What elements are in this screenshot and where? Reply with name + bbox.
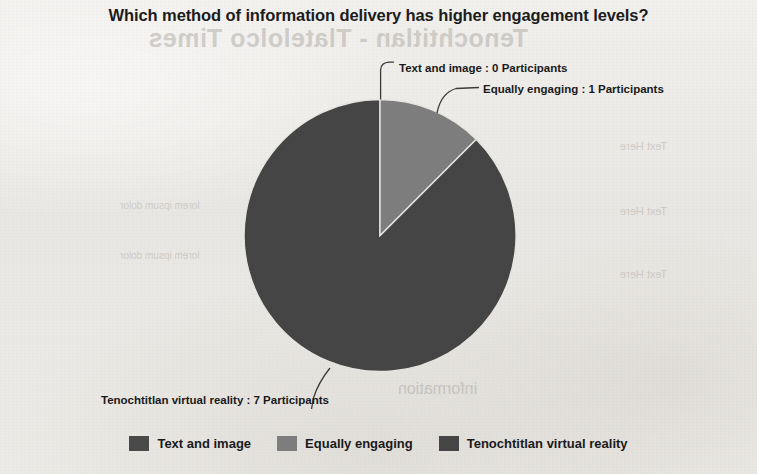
chart-page: Tenochtitlan - Tlatelolco Times Text Her…: [0, 0, 757, 474]
leader-line-equally-engaging: [437, 88, 479, 114]
leader-line-text-and-image: [381, 62, 394, 99]
legend-item-tenochtitlan-virtual-reality[interactable]: Tenochtitlan virtual reality: [439, 436, 628, 451]
data-label-text-and-image: Text and image : 0 Participants: [399, 62, 568, 74]
data-label-equally-engaging: Equally engaging : 1 Participants: [483, 83, 664, 95]
chart-legend: Text and image Equally engaging Tenochti…: [0, 436, 757, 451]
legend-item-text-and-image[interactable]: Text and image: [129, 436, 251, 451]
legend-swatch-icon: [277, 436, 297, 451]
legend-label: Equally engaging: [305, 436, 413, 451]
legend-swatch-icon: [439, 436, 459, 451]
legend-swatch-icon: [129, 436, 149, 451]
legend-label: Tenochtitlan virtual reality: [467, 436, 628, 451]
legend-label: Text and image: [157, 436, 251, 451]
data-label-tenochtitlan-virtual-reality: Tenochtitlan virtual reality : 7 Partici…: [101, 394, 329, 406]
legend-item-equally-engaging[interactable]: Equally engaging: [277, 436, 413, 451]
